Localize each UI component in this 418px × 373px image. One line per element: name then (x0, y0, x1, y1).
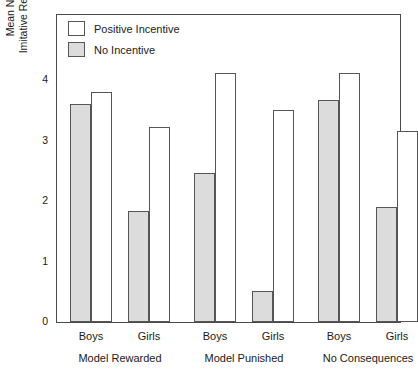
x-axis-group-label: Model Rewarded (78, 352, 161, 364)
y-axis-tick-label: 3 (30, 135, 48, 145)
bar-no-incentive (252, 291, 273, 322)
bar-positive-incentive (91, 92, 112, 322)
x-axis-subgroup-label: Boys (79, 330, 103, 342)
y-axis-title: Mean Number of Different Imitative Respo… (2, 0, 32, 92)
legend-swatch-icon-positive-incentive (68, 21, 85, 36)
x-axis-group-label: No Consequences (323, 352, 414, 364)
bar-no-incentive (128, 211, 149, 322)
y-axis-title-line-2: Imitative Responses Reproduced (17, 0, 30, 53)
y-axis-title-line-1: Mean Number of Different (4, 0, 17, 36)
bar-positive-incentive (149, 127, 170, 322)
bar-no-incentive (318, 100, 339, 322)
legend-label-positive-incentive: Positive Incentive (94, 23, 180, 35)
x-axis-subgroup-label: Girls (138, 330, 161, 342)
bars-container (56, 14, 401, 323)
y-axis-tick-label: 0 (30, 316, 48, 326)
bar-no-incentive (70, 104, 91, 322)
x-axis-subgroup-label: Girls (386, 330, 409, 342)
x-axis-subgroup-label: Girls (262, 330, 285, 342)
bar-positive-incentive (339, 73, 360, 322)
bar-no-incentive (376, 207, 397, 322)
x-axis-subgroup-label: Boys (327, 330, 351, 342)
y-axis-tick-label: 4 (30, 74, 48, 84)
legend-item-positive-incentive: Positive Incentive (68, 20, 180, 37)
bar-positive-incentive (273, 110, 294, 322)
bar-no-incentive (194, 173, 215, 322)
legend-swatch-icon-no-incentive (68, 42, 85, 57)
legend-label-no-incentive: No Incentive (94, 44, 155, 56)
y-axis-tick-label: 2 (30, 195, 48, 205)
bar-positive-incentive (397, 131, 418, 322)
x-axis-group-label: Model Punished (205, 352, 284, 364)
bar-positive-incentive (215, 73, 236, 322)
y-axis-tick-label: 1 (30, 256, 48, 266)
legend-item-no-incentive: No Incentive (68, 41, 180, 58)
bar-chart: Mean Number of Different Imitative Respo… (0, 0, 418, 373)
x-axis-subgroup-label: Boys (203, 330, 227, 342)
legend: Positive Incentive No Incentive (68, 20, 180, 58)
